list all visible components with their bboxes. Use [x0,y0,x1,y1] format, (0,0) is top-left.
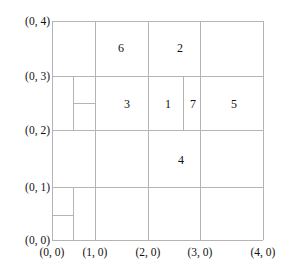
grid-line-col-x3 [200,21,201,240]
grid-line-row-y3 [52,76,263,77]
grid-line-border-right [263,21,264,240]
cell-number-5: 5 [231,97,237,112]
y-axis-label-1: (0, 1) [25,181,50,193]
grid-line-split-upper-left-small [73,103,95,104]
grid-line-split-band-y2y3 [73,76,74,130]
grid-line-col-x2 [148,21,149,240]
grid-line-split-band-y0y1 [73,187,74,240]
grid-line-split-lower-left-small [52,215,73,216]
cell-number-1: 1 [165,97,171,112]
cell-number-3: 3 [124,97,130,112]
y-axis-label-4: (0, 4) [25,15,50,27]
grid-line-border-left [52,21,53,240]
x-axis-label-3: (3, 0) [188,246,213,258]
grid-line-border-bottom [52,240,263,241]
cell-number-2: 2 [177,41,183,56]
grid-line-col-x1 [95,21,96,240]
x-axis-label-4: (4, 0) [251,246,276,258]
grid-line-border-top [52,21,263,22]
y-axis-label-2: (0, 2) [25,124,50,136]
y-axis-label-0: (0, 0) [25,234,50,246]
grid-partition-diagram: 6231754(0, 4)(0, 3)(0, 2)(0, 1)(0, 0)(0,… [0,0,290,271]
grid-line-split-cell-1-7 [183,76,184,130]
x-axis-label-0: (0, 0) [40,246,65,258]
cell-number-4: 4 [178,153,184,168]
grid-line-row-y1 [52,187,263,188]
x-axis-label-2: (2, 0) [136,246,161,258]
grid-line-row-y2 [52,130,263,131]
cell-number-7: 7 [190,97,196,112]
cell-number-6: 6 [118,41,124,56]
x-axis-label-1: (1, 0) [83,246,108,258]
y-axis-label-3: (0, 3) [25,70,50,82]
